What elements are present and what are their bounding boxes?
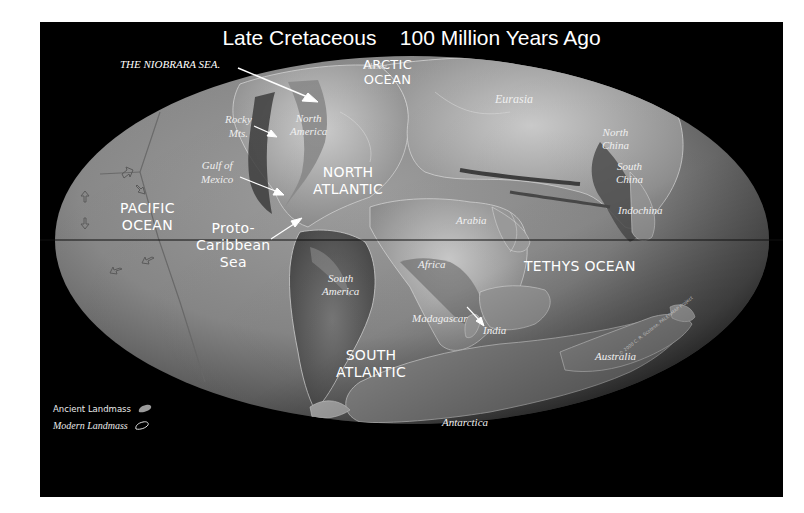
label-indochina: Indochina [618,204,663,217]
map-panel: Late Cretaceous 100 Million Years Ago AR… [40,22,783,497]
label-pacific-line2: OCEAN [120,217,175,234]
label-south-atlantic-line2: ATLANTIC [336,364,406,381]
ancient-landmass-swatch-icon [137,404,153,414]
label-north-china: North China [602,126,629,152]
modern-landmass-outline-icon [134,421,150,431]
label-south-china-line2: China [616,173,643,186]
label-south-america-line2: America [322,285,359,298]
label-alaska: Alaska [365,60,387,73]
label-africa: Africa [418,258,446,271]
legend-ancient-landmass: Ancient Landmass [53,400,153,417]
label-south-china: South China [616,160,643,186]
label-gulf-line2: Mexico [201,172,233,186]
label-north-atlantic: NORTH ATLANTIC [313,164,383,198]
label-south-america: South America [322,272,359,298]
label-pacific-ocean: PACIFIC OCEAN [120,200,175,234]
label-pacific-line1: PACIFIC [120,200,175,217]
label-south-atlantic: SOUTH ATLANTIC [336,347,406,381]
label-madagascar: Madagascar [412,312,468,325]
label-north-america: North America [290,112,327,138]
label-antarctica: Antarctica [442,416,488,429]
label-gulf-of-mexico: Gulf of Mexico [201,158,233,186]
label-south-china-line1: South [616,160,643,173]
legend-modern-landmass: Modern Landmass [53,417,153,434]
label-south-atlantic-line1: SOUTH [336,347,406,364]
label-proto-caribbean-line2: Caribbean [196,237,271,254]
label-proto-caribbean-sea: Proto- Caribbean Sea [196,220,271,271]
label-gulf-line1: Gulf of [201,158,233,172]
label-proto-caribbean-line3: Sea [196,254,271,271]
label-north-china-line1: North [602,126,629,139]
label-australia: Australia [595,350,636,363]
label-niobrara-sea: THE NIOBRARA SEA. [120,57,220,71]
label-arabia: Arabia [456,214,487,227]
label-north-atlantic-line2: ATLANTIC [313,181,383,198]
legend-modern-label: Modern Landmass [53,420,128,431]
label-south-america-line1: South [322,272,359,285]
legend-ancient-label: Ancient Landmass [53,404,131,414]
label-rocky-line1: Rocky [225,112,252,126]
label-proto-caribbean-line1: Proto- [196,220,271,237]
label-rocky-line2: Mts. [225,126,252,140]
label-rocky-mountains: Rocky Mts. [225,112,252,140]
label-india: India [483,324,506,337]
label-north-america-line1: North [290,112,327,125]
map-legend: Ancient Landmass Modern Landmass [53,400,153,434]
label-north-america-line2: America [290,125,327,138]
label-eurasia: Eurasia [495,93,533,106]
label-tethys-ocean: TETHYS OCEAN [524,258,636,275]
label-arctic-line2: OCEAN [363,72,412,87]
label-north-atlantic-line1: NORTH [313,164,383,181]
map-title: Late Cretaceous 100 Million Years Ago [40,26,783,50]
label-north-china-line2: China [602,139,629,152]
